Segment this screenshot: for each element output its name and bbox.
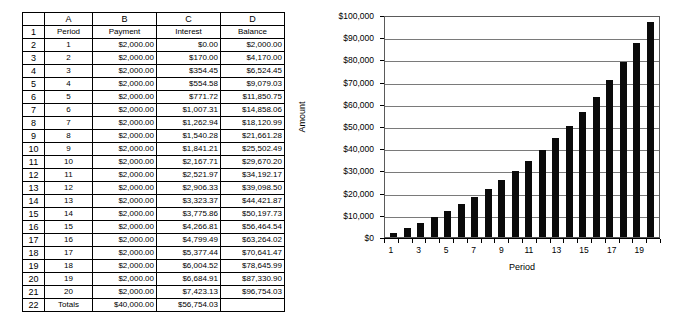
cell-interest[interactable]: $6,684.91	[157, 273, 221, 286]
cell-payment[interactable]: $2,000.00	[93, 91, 157, 104]
cell-period[interactable]: 9	[45, 143, 93, 156]
row-header-11[interactable]: 11	[23, 156, 45, 169]
row-header-16[interactable]: 16	[23, 221, 45, 234]
cell-balance-empty[interactable]	[221, 299, 285, 312]
cell-payment[interactable]: $2,000.00	[93, 208, 157, 221]
cell-balance[interactable]: $87,330.90	[221, 273, 285, 286]
cell-period[interactable]: 12	[45, 182, 93, 195]
sheet-corner-cell[interactable]	[23, 13, 45, 26]
cell-balance[interactable]: $70,641.47	[221, 247, 285, 260]
cell-interest[interactable]: $4,266.81	[157, 221, 221, 234]
cell-interest[interactable]: $7,423.13	[157, 286, 221, 299]
cell-interest[interactable]: $1,540.28	[157, 130, 221, 143]
cell-period[interactable]: 20	[45, 286, 93, 299]
cell-balance[interactable]: $63,264.02	[221, 234, 285, 247]
cell-balance[interactable]: $39,098.50	[221, 182, 285, 195]
cell-interest[interactable]: $2,521.97	[157, 169, 221, 182]
cell-payment[interactable]: $2,000.00	[93, 260, 157, 273]
cell-balance[interactable]: $18,120.99	[221, 117, 285, 130]
cell-interest[interactable]: $1,007.31	[157, 104, 221, 117]
row-header-4[interactable]: 4	[23, 65, 45, 78]
cell-payment[interactable]: $2,000.00	[93, 130, 157, 143]
cell-period[interactable]: 16	[45, 234, 93, 247]
cell-balance[interactable]: $14,858.06	[221, 104, 285, 117]
row-header-17[interactable]: 17	[23, 234, 45, 247]
cell-period[interactable]: 17	[45, 247, 93, 260]
cell-balance[interactable]: $21,661.28	[221, 130, 285, 143]
cell-payment[interactable]: $2,000.00	[93, 156, 157, 169]
cell-payment[interactable]: $2,000.00	[93, 52, 157, 65]
cell-period[interactable]: 7	[45, 117, 93, 130]
field-header-balance[interactable]: Balance	[221, 26, 285, 39]
row-header-20[interactable]: 20	[23, 273, 45, 286]
cell-interest[interactable]: $1,262.94	[157, 117, 221, 130]
cell-balance[interactable]: $6,524.45	[221, 65, 285, 78]
cell-payment[interactable]: $2,000.00	[93, 39, 157, 52]
cell-payment[interactable]: $40,000.00	[93, 299, 157, 312]
cell-period[interactable]: 3	[45, 65, 93, 78]
cell-period[interactable]: 1	[45, 39, 93, 52]
cell-payment[interactable]: $2,000.00	[93, 117, 157, 130]
cell-interest[interactable]: $5,377.44	[157, 247, 221, 260]
cell-period[interactable]: 14	[45, 208, 93, 221]
column-header-a[interactable]: A	[45, 13, 93, 26]
row-header-21[interactable]: 21	[23, 286, 45, 299]
cell-interest[interactable]: $354.45	[157, 65, 221, 78]
cell-balance[interactable]: $4,170.00	[221, 52, 285, 65]
cell-period[interactable]: 4	[45, 78, 93, 91]
field-header-payment[interactable]: Payment	[93, 26, 157, 39]
row-header-18[interactable]: 18	[23, 247, 45, 260]
row-header-15[interactable]: 15	[23, 208, 45, 221]
cell-interest[interactable]: $6,004.52	[157, 260, 221, 273]
cell-payment[interactable]: $2,000.00	[93, 247, 157, 260]
row-header-12[interactable]: 12	[23, 169, 45, 182]
row-header-8[interactable]: 8	[23, 117, 45, 130]
cell-balance[interactable]: $34,192.17	[221, 169, 285, 182]
cell-period[interactable]: 5	[45, 91, 93, 104]
row-header-3[interactable]: 3	[23, 52, 45, 65]
cell-balance[interactable]: $56,464.54	[221, 221, 285, 234]
cell-payment[interactable]: $2,000.00	[93, 169, 157, 182]
cell-balance[interactable]: $9,079.03	[221, 78, 285, 91]
cell-balance[interactable]: $78,645.99	[221, 260, 285, 273]
cell-interest[interactable]: $4,799.49	[157, 234, 221, 247]
cell-interest[interactable]: $2,167.71	[157, 156, 221, 169]
cell-payment[interactable]: $2,000.00	[93, 78, 157, 91]
cell-period[interactable]: 2	[45, 52, 93, 65]
cell-interest[interactable]: $2,906.33	[157, 182, 221, 195]
cell-payment[interactable]: $2,000.00	[93, 143, 157, 156]
cell-balance[interactable]: $29,670.20	[221, 156, 285, 169]
row-header-10[interactable]: 10	[23, 143, 45, 156]
cell-period[interactable]: 13	[45, 195, 93, 208]
row-header-6[interactable]: 6	[23, 91, 45, 104]
row-header-5[interactable]: 5	[23, 78, 45, 91]
cell-interest[interactable]: $3,775.86	[157, 208, 221, 221]
cell-interest[interactable]: $56,754.03	[157, 299, 221, 312]
cell-payment[interactable]: $2,000.00	[93, 234, 157, 247]
cell-balance[interactable]: $2,000.00	[221, 39, 285, 52]
cell-balance[interactable]: $25,502.49	[221, 143, 285, 156]
cell-period[interactable]: Totals	[45, 299, 93, 312]
cell-period[interactable]: 11	[45, 169, 93, 182]
field-header-period[interactable]: Period	[45, 26, 93, 39]
cell-interest[interactable]: $3,323.37	[157, 195, 221, 208]
row-header-7[interactable]: 7	[23, 104, 45, 117]
row-header-1[interactable]: 1	[23, 26, 45, 39]
cell-period[interactable]: 19	[45, 273, 93, 286]
cell-period[interactable]: 10	[45, 156, 93, 169]
column-header-c[interactable]: C	[157, 13, 221, 26]
cell-balance[interactable]: $44,421.87	[221, 195, 285, 208]
cell-interest[interactable]: $1,841.21	[157, 143, 221, 156]
cell-period[interactable]: 15	[45, 221, 93, 234]
cell-interest[interactable]: $771.72	[157, 91, 221, 104]
row-header-14[interactable]: 14	[23, 195, 45, 208]
row-header-19[interactable]: 19	[23, 260, 45, 273]
column-header-b[interactable]: B	[93, 13, 157, 26]
row-header-9[interactable]: 9	[23, 130, 45, 143]
row-header-2[interactable]: 2	[23, 39, 45, 52]
cell-period[interactable]: 6	[45, 104, 93, 117]
field-header-interest[interactable]: Interest	[157, 26, 221, 39]
cell-balance[interactable]: $50,197.73	[221, 208, 285, 221]
cell-balance[interactable]: $11,850.75	[221, 91, 285, 104]
row-header-22[interactable]: 22	[23, 299, 45, 312]
